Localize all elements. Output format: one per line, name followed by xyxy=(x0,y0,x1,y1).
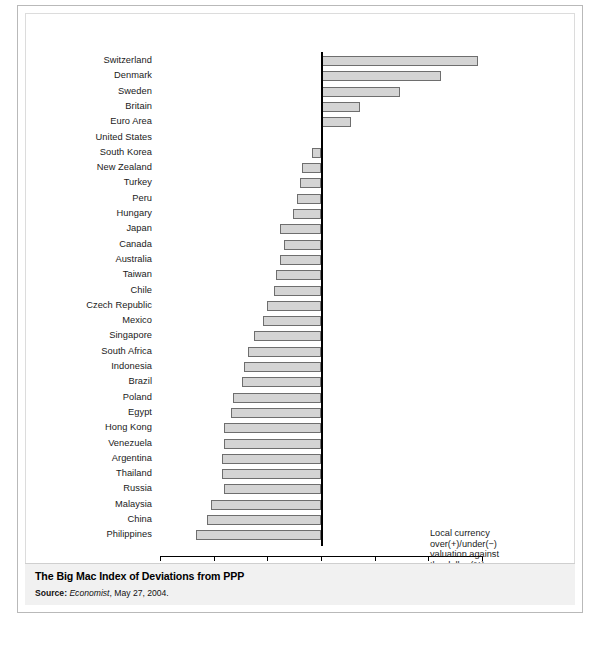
category-label: Hungary xyxy=(40,208,152,218)
bar xyxy=(321,56,478,66)
category-label: Thailand xyxy=(40,468,152,478)
bar xyxy=(321,102,360,112)
bar xyxy=(211,500,321,510)
x-axis-tick xyxy=(321,556,322,561)
bar xyxy=(274,286,321,296)
category-label: Indonesia xyxy=(40,361,152,371)
bar xyxy=(222,469,321,479)
bar xyxy=(300,178,321,188)
x-axis-tick xyxy=(267,556,268,561)
category-label: Switzerland xyxy=(40,55,152,65)
category-label: Sweden xyxy=(40,86,152,96)
bar xyxy=(321,71,441,81)
bar xyxy=(276,270,321,280)
category-label: Britain xyxy=(40,101,152,111)
category-label: Chile xyxy=(40,285,152,295)
bar xyxy=(233,393,321,403)
legend-line-1: Local currency xyxy=(430,528,548,539)
category-label: New Zealand xyxy=(40,162,152,172)
bar xyxy=(248,347,321,357)
category-label: Czech Republic xyxy=(40,300,152,310)
category-label: Turkey xyxy=(40,177,152,187)
category-label: Poland xyxy=(40,392,152,402)
category-label: Malaysia xyxy=(40,499,152,509)
source-publication: Economist xyxy=(69,588,109,598)
chart-source-line: Source: Economist, May 27, 2004. xyxy=(35,588,169,598)
chart-plot-area: SwitzerlandDenmarkSwedenBritainEuro Area… xyxy=(26,14,576,559)
category-label: South Africa xyxy=(40,346,152,356)
category-axis-labels: SwitzerlandDenmarkSwedenBritainEuro Area… xyxy=(40,54,152,544)
bar xyxy=(254,331,321,341)
x-axis-tick xyxy=(375,556,376,561)
category-label: Venezuela xyxy=(40,438,152,448)
bar xyxy=(312,148,321,158)
chart-caption-title: The Big Mac Index of Deviations from PPP xyxy=(35,570,244,582)
x-axis-tick xyxy=(160,556,161,561)
bar xyxy=(263,316,321,326)
category-label: Hong Kong xyxy=(40,422,152,432)
category-label: Peru xyxy=(40,193,152,203)
source-label: Source: xyxy=(35,588,67,598)
category-label: South Korea xyxy=(40,147,152,157)
category-label: Philippines xyxy=(40,529,152,539)
bar xyxy=(321,117,351,127)
category-label: Argentina xyxy=(40,453,152,463)
category-label: Egypt xyxy=(40,407,152,417)
caption-band: The Big Mac Index of Deviations from PPP… xyxy=(25,563,575,605)
category-label: Canada xyxy=(40,239,152,249)
bar xyxy=(207,515,321,525)
bar xyxy=(280,255,321,265)
bar xyxy=(302,163,321,173)
category-label: United States xyxy=(40,132,152,142)
bar xyxy=(284,240,321,250)
bar xyxy=(224,439,321,449)
zero-baseline xyxy=(321,52,323,546)
category-label: Australia xyxy=(40,254,152,264)
category-label: Taiwan xyxy=(40,269,152,279)
category-label: Russia xyxy=(40,483,152,493)
bar xyxy=(231,408,321,418)
bar xyxy=(224,423,321,433)
bar xyxy=(293,209,321,219)
bar xyxy=(267,301,321,311)
source-date: , May 27, 2004. xyxy=(110,588,169,598)
category-label: Japan xyxy=(40,223,152,233)
category-label: Mexico xyxy=(40,315,152,325)
legend-line-2: over(+)/under(−) xyxy=(430,539,548,550)
bar xyxy=(222,454,321,464)
category-label: Singapore xyxy=(40,330,152,340)
figure-inner-frame: SwitzerlandDenmarkSwedenBritainEuro Area… xyxy=(25,13,575,605)
figure-outer-frame: SwitzerlandDenmarkSwedenBritainEuro Area… xyxy=(17,5,583,613)
bar xyxy=(297,194,321,204)
bars-container xyxy=(156,54,556,544)
category-label: Euro Area xyxy=(40,116,152,126)
legend-line-3: valuation against xyxy=(430,549,548,560)
bar xyxy=(224,484,321,494)
bar xyxy=(280,224,321,234)
bar xyxy=(244,362,321,372)
bar xyxy=(321,87,400,97)
bar xyxy=(196,530,321,540)
category-label: China xyxy=(40,514,152,524)
category-label: Brazil xyxy=(40,376,152,386)
bar xyxy=(242,377,321,387)
x-axis-tick xyxy=(214,556,215,561)
category-label: Denmark xyxy=(40,70,152,80)
